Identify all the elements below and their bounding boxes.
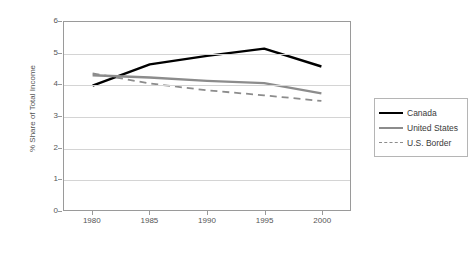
x-axis-tick-mark [265,211,266,215]
y-axis-label: % Share of Total Income [28,49,37,169]
y-axis-tick-mark [58,53,62,54]
legend-label-us-border: U.S. Border [407,138,451,148]
gridline [64,54,350,55]
x-axis-tick-label: 1980 [70,216,114,225]
legend-item-us-border: U.S. Border [379,135,462,150]
x-axis-tick-label: 1990 [185,216,229,225]
legend-swatch-us-border-icon [379,138,403,148]
y-axis-tick-label: 1 [32,175,58,183]
y-axis-tick-label: 0 [32,207,58,215]
legend-item-canada: Canada [379,105,462,120]
plot-area [63,21,351,211]
gridline [64,85,350,86]
x-axis-tick-mark [149,211,150,215]
chart-legend: Canada United States U.S. Border [374,98,468,157]
x-axis-tick-mark [92,211,93,215]
gridline [64,117,350,118]
y-axis-tick-mark [58,21,62,22]
series-lines [64,22,350,210]
gridline [64,180,350,181]
x-axis-tick-mark [322,211,323,215]
legend-swatch-united-states-icon [379,123,403,133]
legend-label-united-states: United States [407,123,458,133]
y-axis-tick-mark [58,179,62,180]
legend-item-united-states: United States [379,120,462,135]
y-axis-tick-mark [58,148,62,149]
x-axis-tick-label: 1995 [243,216,287,225]
y-axis-tick-mark [58,84,62,85]
y-axis-tick-mark [58,116,62,117]
legend-label-canada: Canada [407,108,437,118]
legend-swatch-canada-icon [379,108,403,118]
line-chart: 0123456 % Share of Total Income Canada U… [0,0,476,256]
y-axis-tick-mark [58,211,62,212]
x-axis-tick-label: 2000 [300,216,344,225]
gridline [64,149,350,150]
x-axis-tick-mark [207,211,208,215]
x-axis-tick-label: 1985 [127,216,171,225]
y-axis-tick-label: 6 [32,17,58,25]
